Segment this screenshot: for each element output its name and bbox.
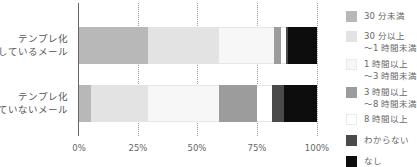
x-tick-label: 0% bbox=[72, 143, 86, 153]
legend-label-line2: 〜1 時間未満 bbox=[364, 42, 417, 54]
bar-segment bbox=[274, 27, 281, 64]
legend-item: なし bbox=[346, 155, 382, 167]
legend-item: 30 分以上〜1 時間未満 bbox=[346, 30, 417, 54]
bar-segment bbox=[219, 85, 257, 122]
legend-label: 3 時間以上 bbox=[364, 86, 417, 98]
x-tick-label: 100% bbox=[305, 143, 329, 153]
bar-segment bbox=[91, 85, 148, 122]
legend-item: 30 分未満 bbox=[346, 10, 405, 22]
legend-label: 30 分以上 bbox=[364, 30, 417, 42]
legend-swatch bbox=[346, 156, 357, 167]
legend-swatch bbox=[346, 59, 357, 70]
legend-swatch bbox=[346, 87, 357, 98]
category-label-line1: テンプレ化 bbox=[0, 90, 68, 103]
legend-label-line2: 〜3 時間未満 bbox=[364, 70, 417, 82]
bar-segment bbox=[288, 27, 317, 64]
category-label-line2: していないメール bbox=[0, 103, 68, 116]
legend-item: 1 時間以上〜3 時間未満 bbox=[346, 58, 417, 82]
legend-swatch bbox=[346, 135, 357, 146]
legend-item: 3 時間以上〜8 時間未満 bbox=[346, 86, 417, 110]
legend-label: 8 時間以上 bbox=[364, 113, 408, 125]
bar-templated bbox=[79, 27, 317, 64]
legend-swatch bbox=[346, 11, 357, 22]
legend-label-line2: 〜8 時間未満 bbox=[364, 98, 417, 110]
category-label-line2: しているメール bbox=[0, 45, 68, 58]
legend-label: 30 分未満 bbox=[364, 10, 405, 22]
bar-segment bbox=[272, 85, 284, 122]
bar-segment bbox=[148, 85, 219, 122]
legend-label: わからない bbox=[364, 134, 409, 146]
bar-segment bbox=[219, 27, 274, 64]
legend-item: 8 時間以上 bbox=[346, 113, 408, 125]
legend-label: なし bbox=[364, 155, 382, 167]
bar-segment bbox=[79, 27, 148, 64]
gridline-100 bbox=[317, 3, 318, 136]
bar-not-templated bbox=[79, 85, 317, 122]
bar-segment bbox=[79, 85, 91, 122]
x-tick-label: 75% bbox=[248, 143, 267, 153]
y-axis-line bbox=[78, 3, 79, 136]
x-tick-label: 50% bbox=[188, 143, 207, 153]
bar-segment bbox=[148, 27, 219, 64]
legend-swatch bbox=[346, 31, 357, 42]
legend-item: わからない bbox=[346, 134, 409, 146]
bar-segment bbox=[257, 85, 271, 122]
legend-label: 1 時間以上 bbox=[364, 58, 417, 70]
bar-segment bbox=[284, 85, 317, 122]
category-label-templated: テンプレ化 しているメール bbox=[0, 32, 68, 58]
legend-swatch bbox=[346, 114, 357, 125]
x-tick-label: 25% bbox=[129, 143, 148, 153]
category-label-line1: テンプレ化 bbox=[0, 32, 68, 45]
category-label-not-templated: テンプレ化 していないメール bbox=[0, 90, 68, 116]
